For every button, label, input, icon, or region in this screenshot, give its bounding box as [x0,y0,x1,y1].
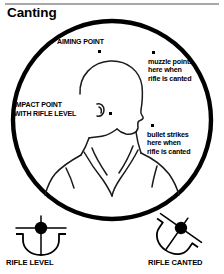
muzzle-point-dot [152,51,155,54]
caption-rifle-level: RIFLE LEVEL [6,258,53,267]
label-bullet-strikes: bullet strikes here when rifle is canted [147,131,190,156]
label-muzzle-points: muzzle points here when rifle is canted [148,58,193,83]
label-aiming-point: AIMING POINT [57,38,104,47]
caption-rifle-canted: RIFLE CANTED [148,258,203,267]
rifle-level-sight-icon [16,216,66,255]
label-bullet-line-3: rifle is canted [147,148,190,156]
label-impact-point-line-1: IMPACT POINT [14,101,76,110]
aiming-point-dot [98,50,101,53]
page-root: Canting [0,0,224,274]
field-of-view-circle [13,21,211,219]
rifle-canted-sight-icon [145,204,208,265]
label-impact-point-line-2: WITH RIFLE LEVEL [14,110,76,119]
bullet-strike-dot [151,124,154,127]
canting-illustration [0,0,224,274]
label-impact-point: IMPACT POINT WITH RIFLE LEVEL [14,101,76,118]
impact-point-dot [109,112,112,115]
label-muzzle-line-3: rifle is canted [148,75,193,83]
